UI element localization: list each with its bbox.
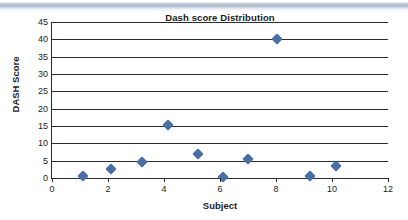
x-axis-tick — [388, 178, 389, 182]
x-axis-tick-label: 0 — [40, 184, 64, 194]
chart-figure: Dash score Distribution DASH Score Subje… — [0, 0, 408, 220]
y-axis-tick-label: 15 — [22, 122, 48, 131]
x-axis-tick — [276, 178, 277, 182]
y-axis-tick-label: 0 — [22, 174, 48, 183]
data-point-marker — [217, 171, 228, 182]
y-axis-tick-label: 25 — [22, 87, 48, 96]
top-band-rule — [0, 4, 408, 7]
gridline-y — [52, 91, 388, 92]
x-axis-tick-label: 6 — [208, 184, 232, 194]
gridline-y — [52, 57, 388, 58]
gridline-y — [52, 74, 388, 75]
x-axis-tick — [108, 178, 109, 182]
data-point-marker — [77, 171, 88, 182]
top-decorative-band — [0, 0, 408, 11]
y-axis-tick-label: 5 — [22, 157, 48, 166]
data-point-marker — [242, 153, 253, 164]
y-axis-tick-label: 10 — [22, 139, 48, 148]
x-axis-tick-label: 2 — [96, 184, 120, 194]
gridline-y — [52, 109, 388, 110]
gridline-y — [52, 143, 388, 144]
data-point-marker — [105, 163, 116, 174]
y-axis-tick-label: 35 — [22, 53, 48, 62]
x-axis-tick — [164, 178, 165, 182]
x-axis-tick — [220, 178, 221, 182]
plot-area — [52, 22, 388, 178]
x-axis-tick-label: 4 — [152, 184, 176, 194]
x-axis-tick — [332, 178, 333, 182]
x-axis-tick-label: 12 — [376, 184, 400, 194]
data-point-marker — [136, 157, 147, 168]
gridline-y — [52, 39, 388, 40]
x-axis-tick-label: 8 — [264, 184, 288, 194]
y-axis-tick-label: 40 — [22, 35, 48, 44]
data-point-marker — [163, 119, 174, 130]
data-point-marker — [272, 34, 283, 45]
y-axis-tick-label: 30 — [22, 70, 48, 79]
x-axis-tick — [52, 178, 53, 182]
y-axis-tick-label: 20 — [22, 105, 48, 114]
gridline-y — [52, 22, 388, 23]
data-point-marker — [304, 171, 315, 182]
gridline-y — [52, 126, 388, 127]
data-point-marker — [192, 148, 203, 159]
x-axis-title: Subject — [52, 200, 388, 211]
x-axis-tick-label: 10 — [320, 184, 344, 194]
y-axis-tick-label: 45 — [22, 18, 48, 27]
